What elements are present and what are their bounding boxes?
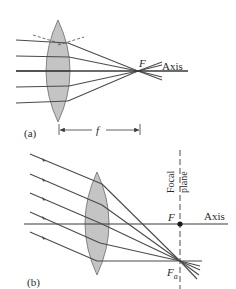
focal-point-label-a: F	[138, 57, 146, 69]
axis-label-a: Axis	[162, 60, 183, 72]
focal-plane-label-line2: plane	[178, 171, 189, 193]
panel-label-a: (a)	[24, 127, 37, 140]
focal-plane-label-line1: Focal	[165, 171, 176, 193]
focal-length-label: f	[96, 124, 101, 136]
ray-direction-arrows-b	[42, 158, 46, 240]
converging-rays-b	[97, 184, 202, 279]
axis-label-b: Axis	[204, 210, 225, 222]
focal-length-dimension	[59, 124, 140, 135]
converging-rays-a	[68, 43, 162, 101]
panel-a: F Axis f (a)	[16, 20, 188, 140]
focal-plane-label: Focal plane	[165, 171, 189, 193]
panel-b: Focal plane F Axis Fa (b)	[24, 150, 228, 289]
focal-point-label-b: F	[167, 211, 175, 223]
focal-point-dot-b	[177, 221, 182, 226]
lens-focus-diagram: F Axis f (a)	[0, 0, 236, 289]
panel-label-b: (b)	[27, 276, 40, 289]
off-axis-focal-label: Fa	[166, 266, 178, 281]
off-axis-focal-label-sub: a	[174, 272, 178, 281]
